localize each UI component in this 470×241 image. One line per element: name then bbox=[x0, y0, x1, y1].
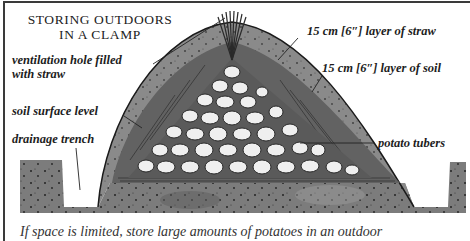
title-line-1: STORING OUTDOORS bbox=[20, 12, 180, 27]
label-ventilation-hole: ventilation hole filled with straw bbox=[12, 53, 122, 81]
figure-caption: If space is limited, store large amounts… bbox=[20, 224, 382, 240]
figure-title: STORING OUTDOORS IN A CLAMP bbox=[20, 12, 180, 42]
label-ventilation-line-2: with straw bbox=[12, 67, 122, 81]
label-drainage-trench: drainage trench bbox=[12, 132, 94, 146]
title-line-2: IN A CLAMP bbox=[20, 27, 180, 42]
label-straw-layer: 15 cm [6″] layer of straw bbox=[307, 24, 436, 38]
label-soil-layer: 15 cm [6″] layer of soil bbox=[322, 61, 441, 75]
label-soil-surface-level: soil surface level bbox=[12, 104, 98, 118]
label-ventilation-line-1: ventilation hole filled bbox=[12, 53, 122, 67]
label-potato-tubers: potato tubers bbox=[378, 136, 445, 150]
